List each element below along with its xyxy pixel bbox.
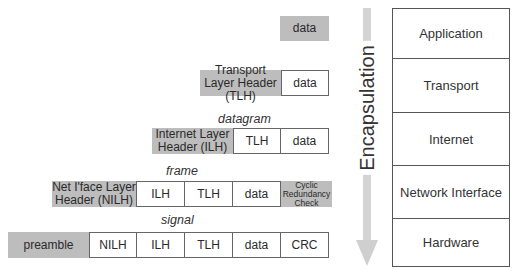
signal-crc-block: CRC — [280, 232, 329, 258]
datagram-label: datagram — [218, 112, 271, 126]
ilh-header-block: Internet Layer Header (ILH) — [152, 128, 233, 154]
datagram-data-block: data — [280, 128, 329, 154]
frame-tlh-block: TLH — [184, 181, 233, 207]
transport-data-block: data — [281, 70, 329, 96]
layer-hardware: Hardware — [393, 219, 509, 266]
tlh-header-block: Transport Layer Header (TLH) — [200, 70, 281, 96]
nilh-header-block: Net I'face Layer Header (NILH) — [52, 181, 136, 207]
frame-ilh-block: ILH — [136, 181, 185, 207]
layer-application: Application — [393, 9, 509, 59]
crc-trailer-block: Cyclic Redundancy Check — [281, 181, 332, 207]
app-data-block: data — [280, 16, 329, 41]
signal-data-block: data — [232, 232, 281, 258]
arrow-down-icon — [356, 240, 378, 266]
signal-nilh-block: NILH — [89, 232, 137, 258]
signal-ilh-block: ILH — [136, 232, 185, 258]
layer-internet: Internet — [393, 113, 509, 166]
layer-transport: Transport — [393, 59, 509, 113]
datagram-tlh-block: TLH — [233, 128, 281, 154]
frame-label: frame — [166, 164, 198, 178]
signal-tlh-block: TLH — [184, 232, 233, 258]
frame-data-block: data — [232, 181, 281, 207]
preamble-block: preamble — [8, 232, 89, 258]
signal-label: signal — [161, 213, 194, 227]
layer-network-interface: Network Interface — [393, 166, 509, 219]
encapsulation-label: Encapsulation — [356, 41, 379, 175]
tcpip-layer-stack: Application Transport Internet Network I… — [392, 8, 510, 267]
